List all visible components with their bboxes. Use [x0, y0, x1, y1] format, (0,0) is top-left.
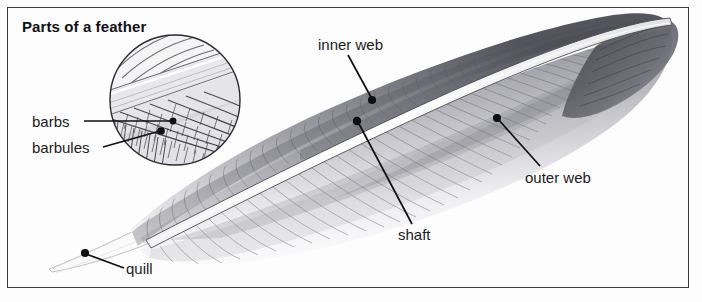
label-quill: quill	[126, 260, 153, 277]
page-title: Parts of a feather	[22, 18, 146, 35]
label-inner-web: inner web	[318, 36, 383, 53]
feather-diagram-figure: Parts of a feather inner web outer web s…	[0, 0, 702, 302]
label-outer-web: outer web	[525, 169, 591, 186]
label-shaft: shaft	[398, 226, 431, 243]
label-barbs: barbs	[32, 113, 70, 130]
label-barbules: barbules	[32, 139, 90, 156]
